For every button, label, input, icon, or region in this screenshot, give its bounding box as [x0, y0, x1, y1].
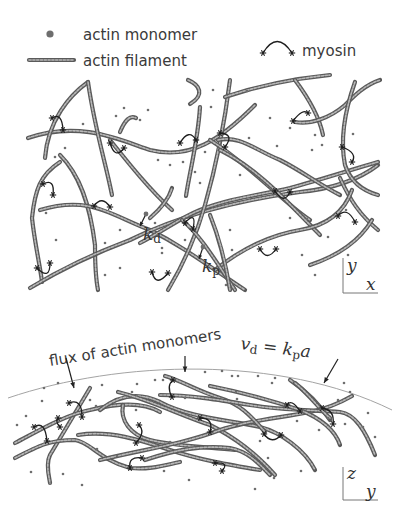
flux-arrow-icon — [324, 359, 338, 383]
zy-axes: z y — [343, 463, 378, 501]
actin-monomer-dot — [362, 426, 365, 429]
actin-monomer-dot — [184, 397, 187, 400]
actin-monomer-dot — [119, 229, 122, 232]
actin-monomer-dot — [96, 448, 99, 451]
actin-monomer-dot — [89, 399, 92, 402]
actin-monomer-dot — [57, 382, 60, 385]
actin-monomer-legend-icon — [46, 30, 53, 37]
actin-monomer-dot — [54, 156, 57, 159]
actin-monomer-dot — [274, 377, 277, 380]
actin-monomer-dot — [62, 473, 65, 476]
actin-monomer-dot — [186, 446, 189, 449]
bottom-panel-cortex: flux of actin monomers vd = kpa z y — [8, 325, 392, 501]
myosin-motor-icon — [339, 144, 355, 165]
actin-monomer-dot — [345, 209, 348, 212]
actin-monomer-dot — [162, 379, 165, 382]
actin-monomer-dot — [321, 144, 324, 147]
kd-monomer-dot — [144, 212, 149, 217]
actin-monomer-dot — [221, 370, 224, 373]
actin-monomer-dot — [246, 90, 249, 93]
kp-monomer-dot — [201, 245, 206, 250]
actin-monomer-dot — [104, 242, 107, 245]
myosin-motor-icon — [34, 260, 53, 273]
actin-monomer-dot — [147, 109, 150, 112]
y-axis-label: y — [346, 255, 357, 275]
myosin-motor-icon — [40, 181, 56, 198]
z-axis-label: z — [346, 463, 357, 483]
actin-monomer-dot — [239, 174, 242, 177]
actin-monomer-dot — [276, 145, 279, 148]
actin-filament — [295, 80, 323, 135]
actin-monomer-dot — [237, 375, 240, 378]
actin-filament — [120, 117, 136, 132]
actin-monomer-dot — [169, 441, 172, 444]
actin-monomer-dot — [343, 382, 346, 385]
actin-monomer-dot — [169, 164, 172, 167]
actin-monomer-dot — [225, 284, 228, 287]
actin-monomer-dot — [289, 217, 292, 220]
actin-monomer-dot — [259, 440, 262, 443]
actin-monomer-dot — [229, 229, 232, 232]
actin-monomer-dot — [157, 159, 160, 162]
actin-filament — [225, 75, 330, 97]
actin-monomer-dot — [131, 391, 134, 394]
actin-monomer-dot — [154, 222, 157, 225]
actin-monomer-dot — [55, 239, 58, 242]
actin-monomer-dot — [269, 117, 272, 120]
actin-monomer-dot — [231, 249, 234, 252]
y-axis-label-bottom: y — [365, 481, 376, 501]
actin-monomer-dot — [236, 398, 239, 401]
actin-monomer-dot — [212, 89, 215, 92]
flux-equation: vd = kpa — [239, 333, 312, 363]
actin-monomer-dot — [199, 182, 202, 185]
actin-monomer-dot — [64, 147, 67, 150]
actin-monomer-dot — [82, 123, 85, 126]
bottom-filaments — [15, 376, 375, 483]
actin-myosin-diagram: actin monomer actin filament myosin kd k… — [0, 0, 410, 511]
actin-monomer-dot — [139, 119, 142, 122]
myosin-motor-icon — [260, 42, 295, 56]
actin-monomer-dot — [115, 115, 118, 118]
top-panel-network: kd kp y x — [28, 75, 380, 294]
actin-filament — [210, 215, 230, 290]
actin-monomer-dot — [154, 379, 157, 382]
monomer-flux-annotation: flux of actin monomers — [48, 325, 223, 370]
actin-monomer-dot — [296, 420, 299, 423]
actin-monomer-dot — [337, 399, 340, 402]
actin-monomer-dot — [123, 107, 126, 110]
actin-monomer-dot — [306, 218, 309, 221]
actin-monomer-dot — [194, 171, 197, 174]
actin-monomer-dot — [349, 391, 352, 394]
actin-monomer-dot — [43, 387, 46, 390]
actin-monomer-dot — [311, 149, 314, 152]
actin-monomer-dot — [344, 423, 347, 426]
actin-monomer-dot — [163, 470, 166, 473]
actin-monomer-dot — [104, 274, 107, 277]
actin-monomer-dot — [273, 477, 276, 480]
actin-filament — [188, 80, 199, 104]
actin-monomer-dot — [327, 236, 330, 239]
actin-monomer-dot — [95, 405, 98, 408]
actin-monomer-dot — [314, 274, 317, 277]
actin-monomer-dot — [184, 239, 187, 242]
actin-monomer-dot — [30, 471, 33, 474]
actin-monomer-dot — [267, 457, 270, 460]
flux-arrow-icon — [183, 356, 188, 372]
bottom-myosins — [31, 377, 336, 474]
kp-label: kp — [202, 256, 220, 278]
actin-monomer-dot — [182, 161, 185, 164]
actin-monomer-dot — [25, 415, 28, 418]
actin-monomer-dot — [101, 384, 104, 387]
actin-monomer-dot — [135, 409, 138, 412]
actin-monomer-dot — [204, 371, 207, 374]
actin-monomer-dot — [188, 479, 191, 482]
actin-monomer-dot — [161, 252, 164, 255]
actin-monomer-dot — [301, 254, 304, 257]
actin-monomer-dot — [45, 212, 48, 215]
actin-monomer-dot — [352, 133, 355, 136]
myosin-motor-icon — [149, 269, 171, 280]
actin-monomer-dot — [16, 424, 19, 427]
actin-monomer-dot — [254, 488, 257, 491]
actin-monomer-dot — [374, 436, 377, 439]
x-axis-label: x — [366, 274, 376, 294]
